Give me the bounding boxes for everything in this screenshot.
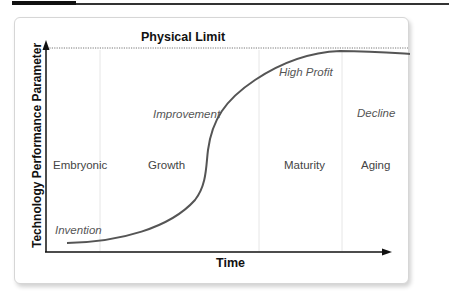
annotation-decline: Decline: [357, 107, 395, 119]
phase-label-maturity: Maturity: [284, 159, 325, 171]
phase-label-growth: Growth: [148, 159, 185, 171]
s-curve-diagram: [0, 0, 449, 299]
annotation-high-profit: High Profit: [279, 66, 333, 78]
phase-label-embryonic: Embryonic: [53, 159, 107, 171]
annotation-improvement: Improvement: [153, 108, 220, 120]
x-axis-arrow-icon: [382, 249, 392, 256]
y-axis-label: Technology Performance Parameter: [30, 43, 44, 248]
x-axis-label: Time: [216, 256, 245, 270]
physical-limit-label: Physical Limit: [141, 30, 225, 44]
s-curve: [67, 51, 410, 243]
phase-label-aging: Aging: [361, 159, 390, 171]
annotation-invention: Invention: [55, 224, 102, 236]
